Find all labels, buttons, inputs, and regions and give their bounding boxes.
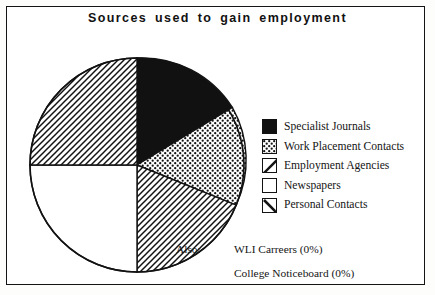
- legend-swatch-employment-agencies: [262, 158, 277, 173]
- legend-swatch-specialist-journals: [262, 119, 277, 134]
- legend-label-newspapers: Newspapers: [284, 180, 341, 192]
- legend-label-personal-contacts: Personal Contacts: [284, 199, 367, 211]
- legend-item-newspapers: Newspapers: [262, 176, 430, 196]
- also-item-college-noticeboard: College Noticeboard (0%): [234, 267, 354, 279]
- pie-chart: [24, 52, 250, 278]
- legend-label-specialist-journals: Specialist Journals: [284, 121, 371, 133]
- legend: Specialist Journals Work Placement Conta…: [262, 117, 430, 215]
- pie-chart-svg: [24, 52, 250, 278]
- legend-label-employment-agencies: Employment Agencies: [284, 160, 389, 172]
- legend-item-personal-contacts: Personal Contacts: [262, 195, 430, 215]
- legend-swatch-newspapers: [262, 178, 277, 193]
- also-item-wli-carreers: WLI Carreers (0%): [234, 243, 323, 255]
- pie-slice-newspapers: [30, 165, 137, 272]
- page-title: Sources used to gain employment: [0, 11, 435, 25]
- legend-item-employment-agencies: Employment Agencies: [262, 156, 430, 176]
- legend-swatch-personal-contacts: [262, 198, 277, 213]
- legend-item-specialist-journals: Specialist Journals: [262, 117, 430, 137]
- pie-slice-personal-contacts: [30, 58, 137, 165]
- also-label: Also:: [176, 243, 201, 255]
- legend-item-work-placement-contacts: Work Placement Contacts: [262, 137, 430, 157]
- legend-label-work-placement-contacts: Work Placement Contacts: [284, 141, 404, 153]
- legend-swatch-work-placement-contacts: [262, 139, 277, 154]
